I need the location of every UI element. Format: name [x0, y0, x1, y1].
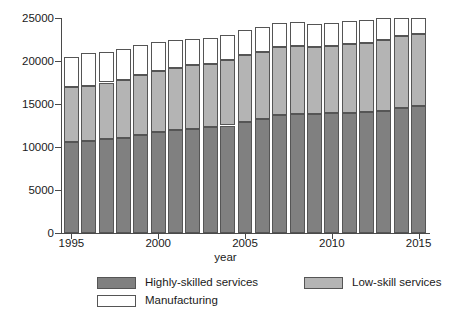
bar-segment-low-skill-services: [238, 55, 253, 122]
bar-segment-highly-skilled-services: [359, 112, 374, 233]
bar-segment-manufacturing: [359, 20, 374, 42]
bar-segment-highly-skilled-services: [133, 135, 148, 233]
legend-item-highly-skilled-services: Highly-skilled services: [97, 275, 258, 290]
x-tick-mark: [158, 233, 159, 239]
bar-1995: [64, 18, 79, 233]
bar-segment-highly-skilled-services: [342, 113, 357, 233]
x-axis-label: year: [0, 251, 451, 263]
bar-segment-manufacturing: [255, 27, 270, 52]
bar-segment-highly-skilled-services: [185, 129, 200, 233]
bar-segment-low-skill-services: [342, 44, 357, 113]
chart-figure: 0500010000150002000025000 19952000200520…: [0, 0, 451, 321]
bar-segment-highly-skilled-services: [238, 122, 253, 233]
x-tick-mark: [332, 233, 333, 239]
bar-segment-highly-skilled-services: [168, 130, 183, 233]
y-tick-label: 15000: [0, 97, 61, 111]
bar-segment-low-skill-services: [64, 87, 79, 142]
bar-segment-highly-skilled-services: [272, 115, 287, 233]
bar-segment-low-skill-services: [411, 34, 426, 105]
bar-2002: [185, 18, 200, 233]
bar-segment-highly-skilled-services: [394, 108, 409, 233]
bar-segment-highly-skilled-services: [81, 141, 96, 233]
bar-segment-low-skill-services: [168, 68, 183, 130]
bar-segment-manufacturing: [307, 24, 322, 47]
bar-segment-manufacturing: [394, 18, 409, 36]
bar-segment-highly-skilled-services: [290, 114, 305, 233]
bar-segment-low-skill-services: [255, 52, 270, 119]
bar-segment-highly-skilled-services: [411, 106, 426, 233]
bar-segment-manufacturing: [411, 18, 426, 34]
y-tick-label: 10000: [0, 140, 61, 154]
x-tick-mark: [419, 233, 420, 239]
bar-segment-low-skill-services: [99, 83, 114, 140]
legend-item-low-skill-services: Low-skill services: [304, 275, 441, 290]
bar-2013: [376, 18, 391, 233]
bar-segment-manufacturing: [185, 39, 200, 66]
bar-segment-low-skill-services: [359, 43, 374, 113]
bar-segment-manufacturing: [203, 38, 218, 64]
y-tick-label: 5000: [0, 183, 61, 197]
bar-segment-low-skill-services: [220, 60, 235, 125]
bar-2008: [290, 18, 305, 233]
y-tick-label: 25000: [0, 11, 61, 25]
bar-segment-highly-skilled-services: [64, 142, 79, 233]
bar-segment-manufacturing: [376, 18, 391, 41]
bar-1998: [116, 18, 131, 233]
bar-2003: [203, 18, 218, 233]
legend-item-manufacturing: Manufacturing: [97, 293, 218, 308]
legend-label-low-skill-services: Low-skill services: [352, 276, 441, 289]
bar-segment-low-skill-services: [307, 47, 322, 114]
bar-segment-highly-skilled-services: [307, 114, 322, 233]
x-tick-mark: [245, 233, 246, 239]
legend-swatch-manufacturing: [97, 295, 136, 307]
y-tick-mark: [55, 190, 61, 191]
bar-1999: [133, 18, 148, 233]
bar-segment-highly-skilled-services: [220, 126, 235, 234]
bar-segment-low-skill-services: [116, 80, 131, 138]
bar-segment-manufacturing: [272, 23, 287, 48]
bar-segment-highly-skilled-services: [255, 119, 270, 233]
y-tick-label: 20000: [0, 54, 61, 68]
bar-segment-highly-skilled-services: [203, 127, 218, 233]
bar-2004: [220, 18, 235, 233]
legend-label-manufacturing: Manufacturing: [145, 294, 218, 307]
y-tick-mark: [55, 233, 61, 234]
bar-segment-low-skill-services: [133, 75, 148, 135]
bar-2007: [272, 18, 287, 233]
bar-segment-manufacturing: [116, 49, 131, 80]
bar-segment-low-skill-services: [272, 47, 287, 115]
y-tick-mark: [55, 147, 61, 148]
bar-segment-low-skill-services: [151, 71, 166, 132]
bar-segment-low-skill-services: [290, 46, 305, 114]
bar-segment-manufacturing: [290, 22, 305, 46]
bar-segment-manufacturing: [324, 23, 339, 45]
bar-segment-low-skill-services: [81, 86, 96, 141]
bar-segment-highly-skilled-services: [151, 132, 166, 233]
bar-segment-manufacturing: [342, 21, 357, 43]
bar-2005: [238, 18, 253, 233]
x-tick-mark: [71, 233, 72, 239]
bar-segment-manufacturing: [168, 40, 183, 68]
y-axis-line: [61, 18, 62, 234]
chart-legend: Highly-skilled services Low-skill servic…: [66, 274, 436, 316]
bar-segment-manufacturing: [81, 53, 96, 86]
bar-segment-manufacturing: [64, 57, 79, 87]
bar-segment-manufacturing: [133, 45, 148, 75]
bar-1997: [99, 18, 114, 233]
legend-swatch-low-skill-services: [304, 277, 343, 289]
bar-segment-highly-skilled-services: [116, 138, 131, 233]
bar-segment-highly-skilled-services: [324, 113, 339, 233]
bar-2001: [168, 18, 183, 233]
bar-segment-low-skill-services: [203, 64, 218, 127]
bar-2009: [307, 18, 322, 233]
bar-segment-low-skill-services: [324, 46, 339, 114]
bar-segment-low-skill-services: [185, 65, 200, 128]
bar-1996: [81, 18, 96, 233]
bar-segment-low-skill-services: [376, 40, 391, 111]
bar-segment-manufacturing: [151, 42, 166, 71]
bar-2014: [394, 18, 409, 233]
bar-segment-highly-skilled-services: [99, 139, 114, 233]
bar-2011: [342, 18, 357, 233]
bar-2006: [255, 18, 270, 233]
legend-label-highly-skilled-services: Highly-skilled services: [145, 276, 258, 289]
